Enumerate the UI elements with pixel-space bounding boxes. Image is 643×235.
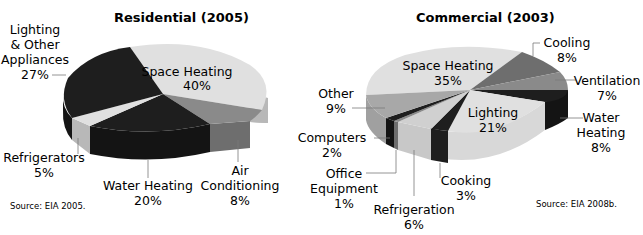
com-pct-lighting: 21%: [479, 120, 507, 135]
com-pct-cooling: 8%: [557, 50, 577, 65]
com-pct-office: 1%: [334, 196, 354, 211]
com-label-office-2: Equipment: [310, 181, 378, 196]
com-label-cooking: Cooking: [441, 173, 492, 188]
res-pct-lighting: 27%: [21, 67, 49, 82]
com-leader-office: [366, 150, 396, 173]
res-pct-ac: 8%: [230, 193, 250, 208]
com-label-ventilation: Ventilation: [574, 73, 641, 88]
com-label-office-1: Office: [326, 166, 363, 181]
charts-canvas: Residential (2005) Space Heating 40% Lig…: [0, 0, 643, 235]
com-pct-refrigeration: 6%: [404, 217, 424, 232]
res-label-ac-1: Air: [231, 163, 249, 178]
com-label-space-heating: Space Heating: [402, 58, 493, 73]
com-label-water-heating-1: Water: [583, 110, 621, 125]
com-leader-cooling: [533, 43, 540, 56]
com-label-lighting: Lighting: [468, 105, 519, 120]
com-label-cooling: Cooling: [544, 35, 591, 50]
com-pct-other: 9%: [326, 101, 346, 116]
com-pct-space-heating: 35%: [434, 73, 462, 88]
com-label-other: Other: [318, 86, 354, 101]
res-label-refrigerators: Refrigerators: [3, 150, 84, 165]
com-label-computers: Computers: [298, 130, 367, 145]
res-pct-refrigerators: 5%: [34, 165, 54, 180]
res-pct-water-heating: 20%: [134, 193, 162, 208]
res-label-lighting-3: Appliances: [1, 52, 69, 67]
com-pct-ventilation: 7%: [597, 88, 617, 103]
com-source: Source: EIA 2008b.: [536, 199, 617, 209]
com-pct-computers: 2%: [322, 145, 342, 160]
com-side-cooking-b: [431, 129, 448, 163]
com-label-water-heating-2: Heating: [577, 125, 626, 140]
com-label-refrigeration: Refrigeration: [373, 202, 454, 217]
com-title: Commercial (2003): [416, 10, 555, 25]
res-pct-space-heating: 40%: [183, 78, 211, 93]
res-label-ac-2: Conditioning: [201, 178, 280, 193]
res-label-water-heating: Water Heating: [103, 178, 193, 193]
res-source: Source: EIA 2005.: [10, 201, 86, 211]
com-side-office: [394, 121, 398, 150]
com-pct-water-heating: 8%: [591, 140, 611, 155]
res-label-space-heating: Space Heating: [141, 64, 232, 79]
res-title: Residential (2005): [114, 10, 249, 25]
res-side-ac-front: [210, 121, 250, 152]
res-label-lighting-2: & Other: [10, 37, 60, 52]
com-side-computers: [386, 118, 394, 148]
res-label-lighting-1: Lighting: [10, 22, 61, 37]
com-pct-cooking: 3%: [456, 188, 476, 203]
